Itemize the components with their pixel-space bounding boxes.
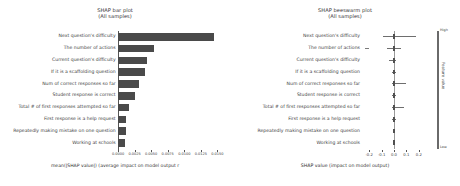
beeswarm-row: First response is a help request (363, 114, 425, 126)
bar (118, 33, 214, 41)
bar (118, 127, 126, 135)
beeswarm-plot-title: SHAP beeswarm plot (All samples) (230, 7, 460, 19)
beeswarm-row: Student response is correct (363, 90, 425, 102)
beeswarm-category-label: Student response is correct (297, 91, 360, 99)
beeswarm-category-label: If it is a scaffolding question (295, 68, 360, 76)
bar-x-axis-ticks: 0.00000.00250.00500.00750.01000.01250.01… (118, 152, 224, 160)
bar (118, 68, 145, 76)
bar-category-label: First response is a help request (44, 115, 116, 123)
beeswarm-row: Working at schools (363, 137, 425, 149)
beeswarm-tick-label: -0.1 (378, 152, 385, 157)
beeswarm-category-label: First response is a help request (288, 115, 360, 123)
bar-plot-title: SHAP bar plot (All samples) (0, 7, 230, 19)
bar-row: First response is a help request (118, 114, 224, 126)
beeswarm-core (393, 46, 395, 51)
beeswarm-category-label: Total # of first responses attempted so … (263, 103, 360, 111)
bar-row: Working at schools (118, 137, 224, 149)
beeswarm-row: Total # of first responses attempted so … (363, 102, 425, 114)
beeswarm-category-label: Next question's difficulty (303, 32, 360, 40)
beeswarm-tick-label: 0.2 (416, 152, 422, 157)
bar-tick-label: 0.0050 (145, 152, 157, 156)
shap-figure: SHAP bar plot (All samples) Next questio… (0, 0, 460, 186)
bar-tick-label: 0.0125 (195, 152, 207, 156)
bar-tick-label: 0.0025 (128, 152, 140, 156)
beeswarm-tick-label: 0.0 (391, 152, 397, 157)
bar-category-label: The number of actions (64, 44, 116, 52)
bar-tick-label: 0.0075 (162, 152, 174, 156)
bar-plot-area: Next question's difficultyThe number of … (118, 31, 224, 149)
bar-row: Current question's difficulty (118, 55, 224, 67)
bar-category-label: Total # of first responses attempted so … (18, 103, 115, 111)
beeswarm-core (393, 140, 394, 145)
bar-plot-subtitle: (All samples) (0, 13, 230, 19)
bar (118, 57, 147, 65)
bar-category-label: Current question's difficulty (52, 56, 116, 64)
beeswarm-core (393, 81, 395, 86)
beeswarm-row: Current question's difficulty (363, 55, 425, 67)
bar-x-axis-label: mean(|SHAP value|) (average impact on mo… (0, 163, 230, 168)
beeswarm-core (393, 105, 395, 110)
bar-row: Next question's difficulty (118, 31, 224, 43)
bar-tick-label: 0.0150 (211, 152, 223, 156)
bar-category-label: Working at schools (72, 139, 115, 147)
beeswarm-plot-area: Next question's difficultyThe number of … (363, 31, 425, 149)
beeswarm-spread (383, 36, 415, 37)
beeswarm-row: Repeatedly making mistake on one questio… (363, 125, 425, 137)
beeswarm-row: If it is a scaffolding question (363, 66, 425, 78)
colorbar-high-label: High (440, 28, 448, 32)
bar (118, 80, 139, 88)
beeswarm-row: Num of correct responses so far (363, 78, 425, 90)
bar-row: Num of correct responses so far (118, 78, 224, 90)
beeswarm-category-label: Working at schools (317, 139, 360, 147)
bar-tick-label: 0.0100 (178, 152, 190, 156)
bar (118, 104, 129, 112)
shap-bar-panel: SHAP bar plot (All samples) Next questio… (0, 0, 230, 186)
beeswarm-category-label: Repeatedly making mistake on one questio… (258, 127, 360, 135)
beeswarm-tick-label: 0.1 (403, 152, 409, 157)
bar-category-label: Student response is correct (53, 91, 116, 99)
colorbar-title: Feature value (441, 62, 446, 89)
beeswarm-x-axis-label: SHAP value (impact on model output) (230, 163, 460, 168)
beeswarm-row: Next question's difficulty (363, 31, 425, 43)
beeswarm-core (393, 117, 394, 122)
bar-tick-label: 0.0000 (112, 152, 124, 156)
beeswarm-core (393, 34, 396, 39)
beeswarm-plot-subtitle: (All samples) (230, 13, 460, 19)
bar-row: Total # of first responses attempted so … (118, 102, 224, 114)
beeswarm-tick-label: -0.2 (365, 152, 372, 157)
bar-row: If it is a scaffolding question (118, 66, 224, 78)
bar-row: The number of actions (118, 43, 224, 55)
colorbar-low-label: Low (440, 145, 447, 149)
bar-category-label: Next question's difficulty (59, 32, 116, 40)
beeswarm-core (393, 93, 395, 98)
beeswarm-core (393, 70, 395, 75)
bar-row: Student response is correct (118, 90, 224, 102)
beeswarm-category-label: Num of correct responses so far (287, 80, 360, 88)
bar (118, 116, 126, 124)
bar-category-label: Repeatedly making mistake on one questio… (13, 127, 115, 135)
bar-row: Repeatedly making mistake on one questio… (118, 125, 224, 137)
bar (118, 45, 154, 53)
bar (118, 92, 135, 100)
beeswarm-category-label: Current question's difficulty (296, 56, 360, 64)
beeswarm-core (393, 58, 395, 63)
bar-category-label: If it is a scaffolding question (51, 68, 116, 76)
beeswarm-x-axis-ticks: -0.2-0.10.00.10.2 (363, 152, 425, 160)
beeswarm-outlier (365, 48, 369, 49)
bar-plot-title-main: SHAP bar plot (97, 7, 133, 13)
feature-value-colorbar (437, 31, 439, 149)
bar (118, 139, 125, 147)
beeswarm-row: The number of actions (363, 43, 425, 55)
beeswarm-plot-title-main: SHAP beeswarm plot (318, 7, 372, 13)
beeswarm-core (393, 129, 394, 134)
beeswarm-category-label: The number of actions (308, 44, 360, 52)
bar-category-label: Num of correct responses so far (42, 80, 115, 88)
